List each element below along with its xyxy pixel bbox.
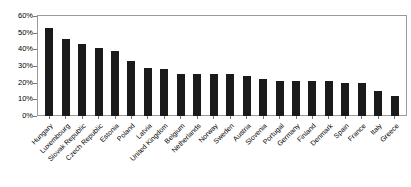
bar-slot — [57, 16, 73, 116]
bar — [127, 61, 135, 116]
x-axis-tick-mark — [197, 116, 198, 119]
bar-slot — [255, 16, 271, 116]
bar — [210, 74, 218, 116]
x-axis-tick-mark — [131, 116, 132, 119]
x-axis-tick-mark — [394, 116, 395, 119]
x-axis-tick-mark — [263, 116, 264, 119]
bar-slot — [189, 16, 205, 116]
x-axis-label-slot: Germany — [288, 120, 304, 186]
bar-slot — [271, 16, 287, 116]
bar-slot — [90, 16, 106, 116]
x-axis-label-slot: Denmark — [321, 120, 337, 186]
bar-slot — [173, 16, 189, 116]
x-axis-label-slot: Finland — [304, 120, 320, 186]
y-axis-tick-mark — [33, 49, 37, 50]
bar-slot — [337, 16, 353, 116]
y-axis-tick-label: 30% — [18, 62, 33, 70]
bar-slot — [156, 16, 172, 116]
y-axis-tick-mark — [33, 116, 37, 117]
x-axis-tick-mark — [328, 116, 329, 119]
x-axis-label-slot: Austria — [238, 120, 254, 186]
bar — [62, 39, 70, 116]
bar — [341, 83, 349, 116]
x-axis-tick-mark — [378, 116, 379, 119]
x-axis-tick-mark — [115, 116, 116, 119]
bar — [95, 48, 103, 116]
bar-slot — [370, 16, 386, 116]
bar — [276, 81, 284, 116]
y-axis-tick-label: 60% — [18, 12, 33, 20]
y-axis-tick-label: 50% — [18, 29, 33, 37]
bar-slot — [41, 16, 57, 116]
x-axis-label-slot: France — [354, 120, 370, 186]
x-axis-tick-mark — [296, 116, 297, 119]
y-axis-tick-label: 40% — [18, 45, 33, 53]
y-axis-tick-label: 0% — [22, 112, 33, 120]
plot-area — [38, 16, 406, 116]
bar — [45, 28, 53, 116]
bar — [226, 74, 234, 116]
x-axis-tick-mark — [361, 116, 362, 119]
x-axis-tick-mark — [246, 116, 247, 119]
bar — [308, 81, 316, 116]
bar — [243, 76, 251, 116]
x-axis-tick-mark — [65, 116, 66, 119]
bar — [391, 96, 399, 116]
x-axis-tick-mark — [279, 116, 280, 119]
y-axis-tick-mark — [33, 83, 37, 84]
bar — [358, 83, 366, 116]
x-axis-label-slot: United Kingdom — [156, 120, 172, 186]
x-axis-tick-mark — [312, 116, 313, 119]
x-axis-tick-mark — [345, 116, 346, 119]
bar — [193, 74, 201, 116]
x-axis-label-slot: Sweden — [222, 120, 238, 186]
bar-slot — [123, 16, 139, 116]
x-axis-label-slot: Netherlands — [189, 120, 205, 186]
y-axis-tick-mark — [33, 16, 37, 17]
bar — [374, 91, 382, 116]
bar-slot — [387, 16, 403, 116]
y-axis-tick-label: 10% — [18, 95, 33, 103]
x-axis-tick-mark — [213, 116, 214, 119]
x-axis-labels: HungaryLuxembourgSlovak RepublicCzech Re… — [38, 120, 406, 186]
bar — [292, 81, 300, 116]
x-axis-tick-mark — [180, 116, 181, 119]
bar — [177, 74, 185, 116]
bar — [144, 68, 152, 116]
bar-slot — [140, 16, 156, 116]
x-axis-label-slot: Czech Republic — [90, 120, 106, 186]
x-axis-tick-mark — [82, 116, 83, 119]
x-axis-tick-mark — [230, 116, 231, 119]
y-axis-tick-label: 20% — [18, 79, 33, 87]
bar-chart: 60%50%40%30%20%10%0% HungaryLuxembourgSl… — [0, 0, 411, 187]
x-axis-label-slot: Slovenia — [255, 120, 271, 186]
x-axis-label-slot: Spain — [337, 120, 353, 186]
x-axis-label-slot: Estonia — [107, 120, 123, 186]
y-axis-tick-mark — [33, 33, 37, 34]
x-axis-label-slot: Italy — [370, 120, 386, 186]
x-axis-label-slot: Norway — [206, 120, 222, 186]
y-axis: 60%50%40%30%20%10%0% — [0, 10, 36, 120]
bar-slot — [354, 16, 370, 116]
bar-slot — [304, 16, 320, 116]
bar-slot — [288, 16, 304, 116]
bar — [259, 79, 267, 116]
y-axis-tick-mark — [33, 66, 37, 67]
bar — [111, 51, 119, 116]
bar-slot — [107, 16, 123, 116]
x-axis-tick-mark — [49, 116, 50, 119]
y-axis-tick-mark — [33, 99, 37, 100]
x-axis-tick-mark — [164, 116, 165, 119]
x-axis-tick-mark — [98, 116, 99, 119]
bar-slot — [74, 16, 90, 116]
bar-slot — [206, 16, 222, 116]
bar-slot — [238, 16, 254, 116]
bar-slot — [222, 16, 238, 116]
bar — [78, 44, 86, 116]
x-axis-tick-mark — [147, 116, 148, 119]
bar — [160, 69, 168, 116]
bar-slot — [321, 16, 337, 116]
x-axis-label-slot: Portugal — [271, 120, 287, 186]
x-axis-label-slot: Greece — [387, 120, 403, 186]
bar — [325, 81, 333, 116]
